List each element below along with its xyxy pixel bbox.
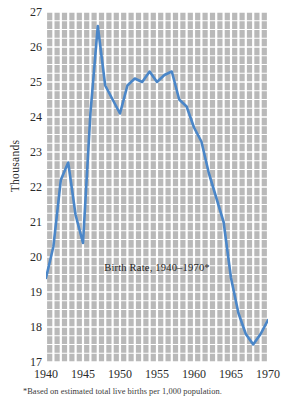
y-axis-tick-25: 25	[2, 76, 42, 88]
y-axis-tick-20: 20	[2, 251, 42, 263]
y-axis-tick-23: 23	[2, 146, 42, 158]
chart-title: Birth Rate, 1940–1970*	[46, 262, 268, 273]
y-axis-tick-22: 22	[2, 181, 42, 193]
horizontal-gridlines	[46, 12, 268, 362]
plot-area	[46, 12, 268, 362]
y-axis-tick-21: 21	[2, 216, 42, 228]
plot-svg	[46, 12, 268, 362]
y-axis-tick-19: 19	[2, 286, 42, 298]
y-axis-tick-26: 26	[2, 41, 42, 53]
y-axis-tick-24: 24	[2, 111, 42, 123]
x-axis-tick-labels: 1940194519501955196019651970	[46, 368, 268, 384]
y-axis-tick-labels: 1718192021222324252627	[0, 0, 42, 409]
chart-footnote: *Based on estimated total live births pe…	[23, 387, 283, 397]
birth-rate-chart-figure: Thousands 1718192021222324252627 Birth R…	[0, 0, 286, 409]
y-axis-tick-27: 27	[2, 6, 42, 18]
x-axis-tick-1970: 1970	[245, 368, 286, 380]
y-axis-tick-18: 18	[2, 321, 42, 333]
